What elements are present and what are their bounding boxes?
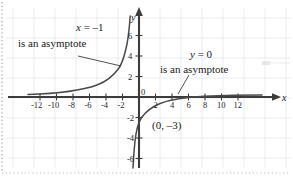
x-tick-label-neg2: -2	[118, 101, 125, 110]
x-tick-label-10: 10	[217, 101, 226, 110]
horizontal-asymptote-equation: y = 0	[190, 49, 212, 60]
y-tick-label-4: 4	[128, 52, 132, 61]
x-tick-label-zero: 0	[141, 88, 145, 97]
x-tick-label-neg8: -8	[68, 101, 75, 110]
x-tick-label-neg10: -10	[48, 101, 59, 110]
graph-figure: -12 -10 -8 -6 -4 -2 0 2 4 6 8 10 12 6 4 …	[0, 0, 293, 177]
vertical-asymptote-equation: x = –1	[76, 22, 104, 33]
x-axis-label: x	[282, 93, 286, 103]
x-tick-label-2: 2	[154, 101, 158, 110]
point-label-y-intercept: (0, –3)	[152, 120, 181, 131]
y-tick-label-neg4: -4	[127, 134, 134, 143]
vertical-asymptote-value: = –1	[81, 21, 104, 33]
y-tick-label-neg6: -6	[127, 155, 134, 164]
figure-background	[0, 0, 293, 177]
x-tick-label-8: 8	[203, 101, 207, 110]
y-tick-label-neg2: -2	[127, 114, 134, 123]
x-tick-label-4: 4	[170, 101, 174, 110]
x-tick-label-neg12: -12	[31, 101, 42, 110]
y-tick-label-2: 2	[128, 73, 132, 82]
x-tick-label-6: 6	[187, 101, 191, 110]
y-tick-label-6: 6	[128, 32, 132, 41]
horizontal-asymptote-value: = 0	[195, 48, 212, 60]
horizontal-asymptote-note: is an asymptote	[160, 64, 228, 75]
x-tick-label-12: 12	[234, 101, 243, 110]
vertical-asymptote-note: is an asymptote	[18, 38, 86, 49]
graph-canvas	[0, 0, 293, 177]
x-tick-label-neg6: -6	[85, 101, 92, 110]
y-axis-label: y	[131, 13, 135, 23]
x-tick-label-neg4: -4	[101, 101, 108, 110]
